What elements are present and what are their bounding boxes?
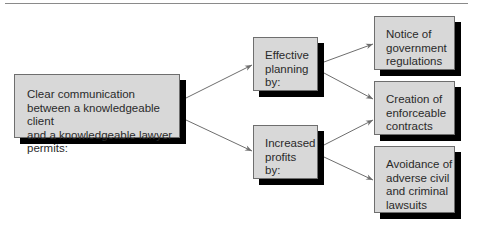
box-increased-profits: Increased profits by: <box>253 125 318 179</box>
box-avoidance-of-lawsuits: Avoidance of adverse civil and criminal … <box>374 146 455 213</box>
box-creation-text: Creation of enforceable contracts <box>386 93 446 134</box>
box-notice-of-regulations: Notice of government regulations <box>374 16 455 70</box>
arrow-root-to-planning <box>186 65 252 98</box>
box-avoidance-text: Avoidance of adverse civil and criminal … <box>386 158 452 212</box>
root-box-text: Clear communication between a knowledgea… <box>27 88 179 156</box>
box-creation-of-contracts: Creation of enforceable contracts <box>374 81 455 135</box>
box-notice-text: Notice of government regulations <box>386 28 447 69</box>
arrow-planning-to-notice <box>324 44 373 62</box>
arrow-planning-to-creation <box>324 73 373 99</box>
arrow-profits-to-creation <box>324 120 373 145</box>
box-increased-profits-text: Increased profits by: <box>265 137 316 178</box>
box-effective-planning: Effective planning by: <box>253 37 318 91</box>
arrow-profits-to-avoidance <box>324 157 373 180</box>
arrow-root-to-profits <box>186 120 252 151</box>
box-effective-planning-text: Effective planning by: <box>265 49 309 90</box>
root-box-clear-communication: Clear communication between a knowledgea… <box>14 74 180 138</box>
